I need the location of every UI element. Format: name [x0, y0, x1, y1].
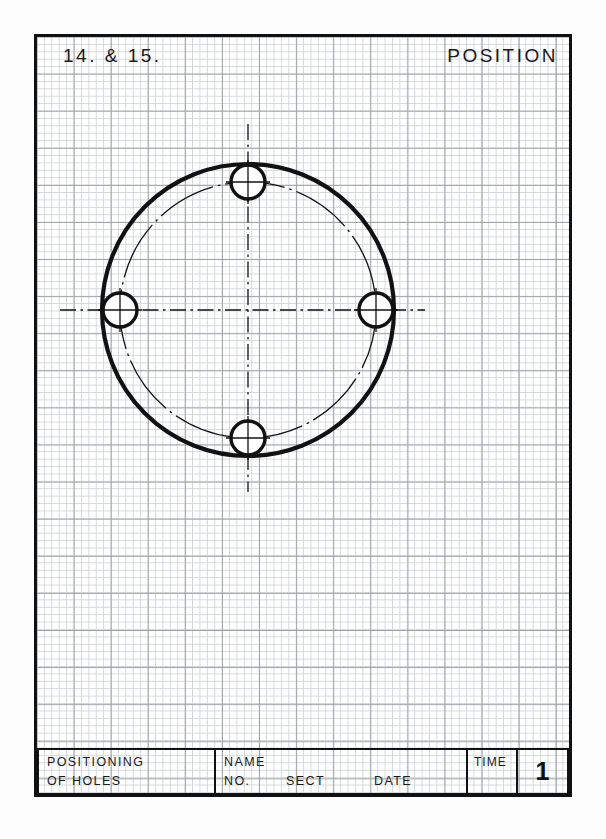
time-label: TIME — [474, 753, 516, 772]
drawing-sheet: 14. & 15. POSITION POSITIONING OF HOLES … — [0, 0, 606, 839]
description-line-2: OF HOLES — [47, 772, 214, 791]
title-block: POSITIONING OF HOLES NAME NO. SECT DATE … — [37, 748, 569, 795]
title-block-sheet-number-cell: 1 — [518, 750, 567, 793]
number-label: NO. — [224, 772, 286, 791]
title-block-name-cell: NAME NO. SECT DATE — [216, 750, 468, 793]
sheet-number: 1 — [536, 759, 550, 784]
title-block-time-cell: TIME — [468, 750, 518, 793]
date-label: DATE — [374, 772, 444, 791]
name-label: NAME — [224, 753, 466, 772]
title-block-description-cell: POSITIONING OF HOLES — [39, 750, 216, 793]
name-cell-second-row: NO. SECT DATE — [224, 772, 466, 791]
description-line-1: POSITIONING — [47, 753, 214, 772]
flange-geometry — [60, 124, 425, 492]
section-label: SECT — [286, 772, 374, 791]
technical-drawing-canvas — [0, 0, 606, 839]
